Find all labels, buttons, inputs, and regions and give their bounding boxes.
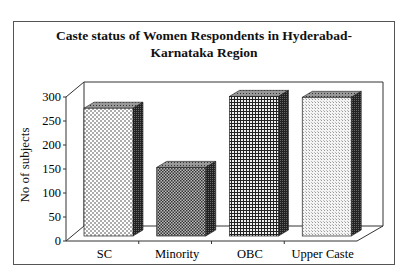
y-tick-label: 50 [49, 210, 62, 224]
bar-side-face [351, 91, 361, 236]
bar-minority [157, 161, 216, 236]
x-category-label: SC [97, 247, 112, 261]
x-category-label: OBC [237, 247, 263, 261]
bar-obc [230, 90, 289, 236]
bar-side-face [206, 161, 216, 236]
y-tick-label: 0 [55, 234, 61, 248]
y-axis-top-edge [66, 82, 84, 97]
x-category-label: Minority [155, 247, 200, 261]
plot-area: 050100150200250300SCMinorityOBCUpper Cas… [0, 0, 405, 280]
x-category-label: Upper Caste [292, 247, 355, 261]
bar-sc [84, 102, 143, 236]
bar-upper-caste [302, 91, 361, 236]
bar-front-face [84, 108, 133, 236]
bar-side-face [133, 102, 143, 236]
y-tick-label: 200 [42, 138, 61, 152]
bar-front-face [302, 97, 351, 236]
bar-front-face [157, 167, 206, 236]
y-tick-label: 250 [42, 114, 61, 128]
y-tick-label: 300 [42, 90, 61, 104]
bars [84, 90, 361, 236]
y-tick-label: 100 [42, 186, 61, 200]
bar-side-face [279, 90, 289, 236]
bar-front-face [230, 96, 279, 236]
y-tick-label: 150 [42, 162, 61, 176]
